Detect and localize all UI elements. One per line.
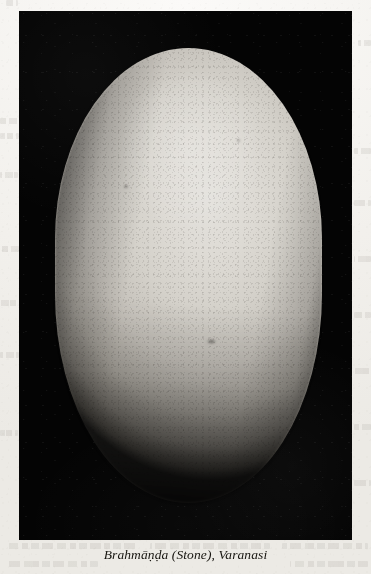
brahmanda-stone	[55, 48, 322, 503]
stone-surface-grain	[55, 48, 322, 503]
scanned-page: Brahmāṇḍa (Stone), Varanasi	[0, 0, 371, 574]
stone-fleck-upper-right	[237, 139, 240, 142]
stone-fleck-upper-left	[124, 185, 128, 188]
plate-caption: Brahmāṇḍa (Stone), Varanasi	[0, 548, 371, 562]
photograph-plate	[19, 11, 352, 540]
